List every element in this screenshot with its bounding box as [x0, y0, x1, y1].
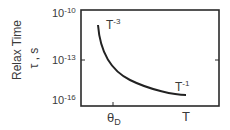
y-axis-title: Relax Time [10, 20, 24, 80]
annotation-t-minus-1: T-1 [175, 79, 190, 94]
plot-frame [81, 10, 219, 106]
svg-text:10-13: 10-13 [52, 53, 76, 66]
x-axis-title: T [182, 109, 190, 124]
svg-text:10-16: 10-16 [52, 93, 76, 106]
svg-text:10-10: 10-10 [52, 6, 76, 19]
y-tick-labels: 10-10 10-13 10-16 [52, 6, 76, 106]
x-tick-label-theta-d: θD [107, 110, 121, 127]
relaxation-curve [98, 25, 186, 95]
chart: Relax Time τ , s 10-10 10-13 10-16 T-3 T… [0, 0, 230, 130]
y-axis-unit: τ , s [27, 48, 41, 69]
annotation-t-minus-3: T-3 [106, 17, 121, 32]
